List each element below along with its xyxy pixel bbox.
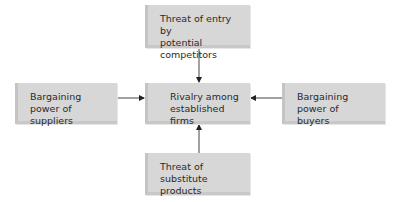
node-threat-of-substitutes: Threat of substitute products bbox=[145, 153, 250, 195]
node-label: Threat of entry by potential competitors bbox=[160, 13, 244, 61]
node-rivalry: Rivalry among established firms bbox=[145, 83, 250, 124]
node-label: Threat of substitute products bbox=[160, 161, 244, 197]
node-label: Rivalry among established firms bbox=[170, 91, 244, 127]
node-threat-of-entry: Threat of entry by potential competitors bbox=[145, 5, 250, 48]
node-label: Bargaining power of buyers bbox=[297, 91, 379, 127]
node-supplier-power: Bargaining power of suppliers bbox=[15, 83, 117, 124]
node-label: Bargaining power of suppliers bbox=[30, 91, 111, 127]
node-buyer-power: Bargaining power of buyers bbox=[282, 83, 385, 124]
